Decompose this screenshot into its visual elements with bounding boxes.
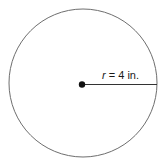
radius-equals: = [106,69,119,81]
center-dot [79,81,85,87]
geometry-canvas: r = 4 in. [0,0,166,165]
circle-radius-figure: r = 4 in. [0,0,166,165]
radius-unit: in. [124,69,139,81]
radius-label: r = 4 in. [102,69,139,81]
